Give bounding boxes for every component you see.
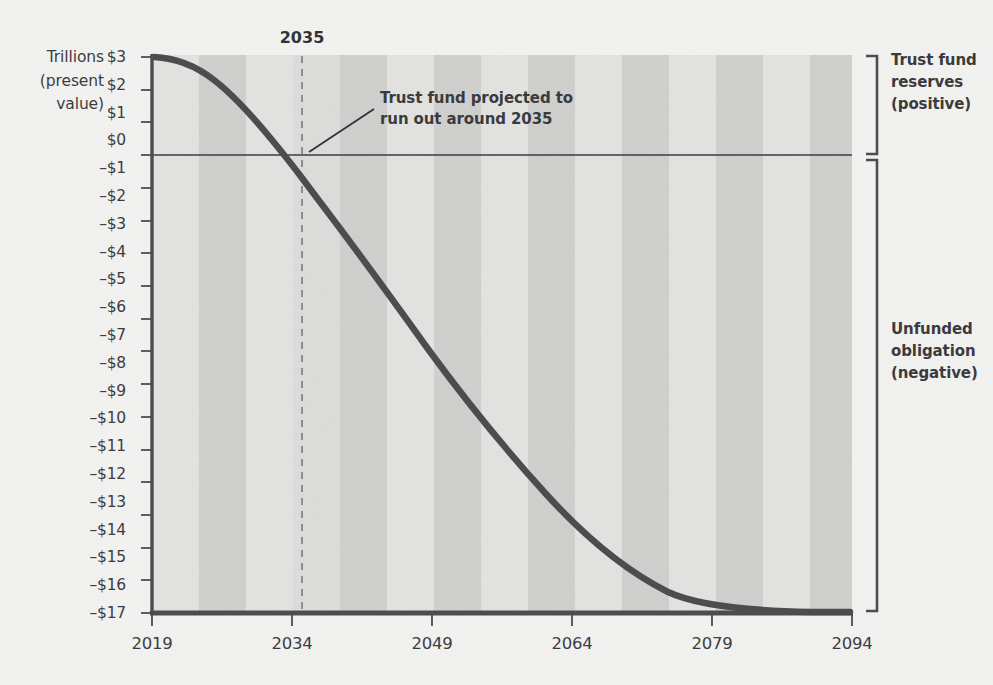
bracket-bottom-line-1: Unfunded <box>891 318 978 340</box>
bracket-bottom-line-3: (negative) <box>891 362 978 384</box>
x-tick-label: 2064 <box>551 634 592 653</box>
chart-figure: Trillions (present value) $3$2$1$0–$1–$2… <box>0 0 993 685</box>
x-tick-label: 2049 <box>411 634 452 653</box>
bracket-top-line-1: Trust fund <box>891 49 977 71</box>
bracket-bottom-line-2: obligation <box>891 340 978 362</box>
x-tick-label: 2019 <box>131 634 172 653</box>
bracket-label-unfunded-obligation: Unfunded obligation (negative) <box>891 318 978 384</box>
bracket-label-trust-fund-reserves: Trust fund reserves (positive) <box>891 49 977 115</box>
x-tick-label: 2034 <box>271 634 312 653</box>
x-tick-label: 2079 <box>691 634 732 653</box>
bracket-top-line-3: (positive) <box>891 93 977 115</box>
trust-fund-callout-annotation: Trust fund projected to run out around 2… <box>380 88 573 130</box>
year-marker-label-2035: 2035 <box>280 28 325 47</box>
callout-line-1: Trust fund projected to <box>380 89 573 107</box>
bracket-top-line-2: reserves <box>891 71 977 93</box>
x-tick-label: 2094 <box>831 634 872 653</box>
callout-line-2: run out around 2035 <box>380 109 573 130</box>
